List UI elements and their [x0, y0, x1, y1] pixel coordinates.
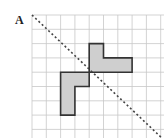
lower-l-shape [61, 72, 90, 115]
shapes [61, 44, 133, 116]
mirror-line [32, 15, 164, 138]
upper-l-shape [89, 44, 132, 73]
reflection-diagram [0, 0, 164, 138]
